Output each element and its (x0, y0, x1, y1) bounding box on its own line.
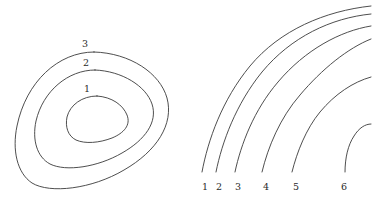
arc-label-1: 1 (202, 181, 208, 192)
arc-label-3: 3 (235, 181, 241, 192)
contour-label-1: 1 (84, 83, 90, 94)
arc-label-4: 4 (263, 181, 269, 192)
arc-label-5: 5 (293, 181, 299, 192)
arc-label-6: 6 (341, 181, 347, 192)
figure-canvas: 3 2 1 1 2 3 4 5 6 (0, 0, 374, 210)
contour-label-2: 2 (83, 57, 89, 68)
arc-label-2: 2 (216, 181, 222, 192)
figure-root: 3 2 1 1 2 3 4 5 6 (0, 0, 374, 210)
figure-background (0, 0, 374, 210)
contour-label-3: 3 (82, 38, 88, 49)
